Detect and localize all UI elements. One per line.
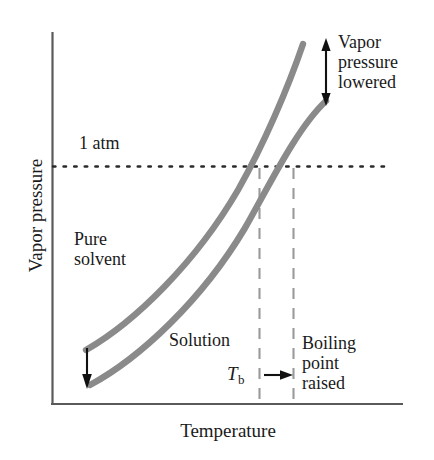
vapor-pressure-diagram: Vapor pressure Temperature 1 atm Vapor p… xyxy=(0,0,434,460)
tb-subscript: b xyxy=(238,372,245,387)
pure-solvent-label: Pure solvent xyxy=(74,229,126,269)
tb-symbol: T xyxy=(227,363,238,384)
vapor-pressure-lowered-label: Vapor pressure lowered xyxy=(338,32,398,92)
boiling-point-temperature-label: Tb xyxy=(227,363,245,387)
y-axis-label: Vapor pressure xyxy=(25,66,46,366)
boiling-point-raised-label: Boiling point raised xyxy=(302,333,356,393)
pure-solvent-curve xyxy=(86,44,303,350)
solution-label: Solution xyxy=(169,330,230,350)
vapor-pressure-lowered-arrow xyxy=(321,38,330,106)
x-axis-label: Temperature xyxy=(52,420,404,441)
boiling-point-elevation-arrow xyxy=(264,370,293,379)
one-atm-label: 1 atm xyxy=(79,133,120,153)
